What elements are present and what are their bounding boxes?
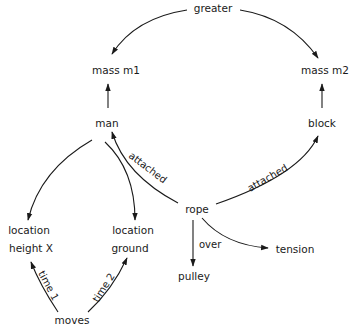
node-height-x: height X bbox=[9, 242, 53, 254]
node-moves: moves bbox=[55, 314, 90, 326]
edge-label-time2: time 2 bbox=[90, 271, 116, 304]
node-man: man bbox=[95, 117, 118, 129]
edge-greater-mass-m2 bbox=[240, 10, 318, 58]
node-pulley: pulley bbox=[178, 270, 210, 282]
node-ground: ground bbox=[111, 242, 148, 254]
node-block: block bbox=[308, 117, 337, 129]
node-location-1: location bbox=[8, 224, 50, 236]
node-rope: rope bbox=[185, 203, 209, 215]
edge-greater-mass-m1 bbox=[112, 10, 187, 54]
node-mass-m2: mass m2 bbox=[301, 64, 349, 76]
semantic-network-diagram: attached attached over time 1 time 2 gre… bbox=[0, 0, 350, 330]
edge-man-location-height bbox=[28, 140, 92, 220]
node-tension: tension bbox=[276, 243, 315, 255]
edge-label-attached-man: attached bbox=[127, 150, 169, 186]
edge-label-over: over bbox=[199, 239, 222, 250]
edge-rope-block-attached bbox=[216, 136, 318, 204]
node-greater-label: greater bbox=[194, 2, 233, 14]
node-mass-m1: mass m1 bbox=[92, 64, 140, 76]
node-location-2: location bbox=[112, 224, 154, 236]
edge-label-attached-block: attached bbox=[246, 162, 290, 194]
